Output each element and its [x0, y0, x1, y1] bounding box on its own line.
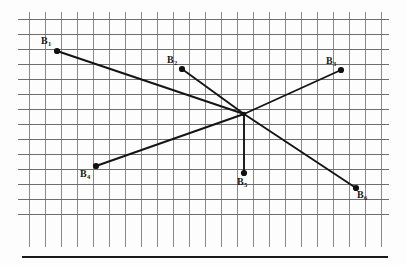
figure-canvas: B1B2B3B4B5B6 [0, 0, 406, 265]
connector-line-b3 [244, 70, 341, 114]
point-marker-b2 [179, 66, 185, 72]
point-label-b1: B1 [41, 36, 51, 46]
connector-line-b6 [244, 114, 356, 188]
connector-line-b1 [57, 51, 244, 114]
point-marker-b1 [54, 48, 60, 54]
point-label-b2: B2 [167, 55, 177, 65]
point-label-subscript: 1 [48, 40, 51, 47]
point-label-b4: B4 [80, 169, 90, 179]
point-label-base: B [357, 189, 364, 200]
point-marker-b3 [338, 67, 344, 73]
connector-line-b2 [182, 69, 244, 114]
grid-vertical-lines [29, 12, 381, 247]
point-label-subscript: 3 [333, 60, 336, 67]
point-label-b5: B5 [237, 177, 247, 187]
point-label-b3: B3 [326, 56, 336, 66]
connector-lines [57, 51, 356, 188]
diagram-svg [0, 0, 406, 265]
point-label-subscript: 4 [87, 173, 90, 180]
point-label-subscript: 2 [174, 59, 177, 66]
center-node-marker [242, 112, 246, 116]
point-label-base: B [237, 176, 244, 187]
point-label-base: B [80, 168, 87, 179]
point-label-base: B [167, 54, 174, 65]
point-label-base: B [326, 55, 333, 66]
point-markers [54, 48, 359, 191]
point-label-subscript: 6 [364, 194, 367, 201]
point-label-b6: B6 [357, 190, 367, 200]
point-marker-b4 [93, 163, 99, 169]
connector-line-b4 [96, 114, 244, 166]
point-label-subscript: 5 [244, 181, 247, 188]
point-label-base: B [41, 35, 48, 46]
